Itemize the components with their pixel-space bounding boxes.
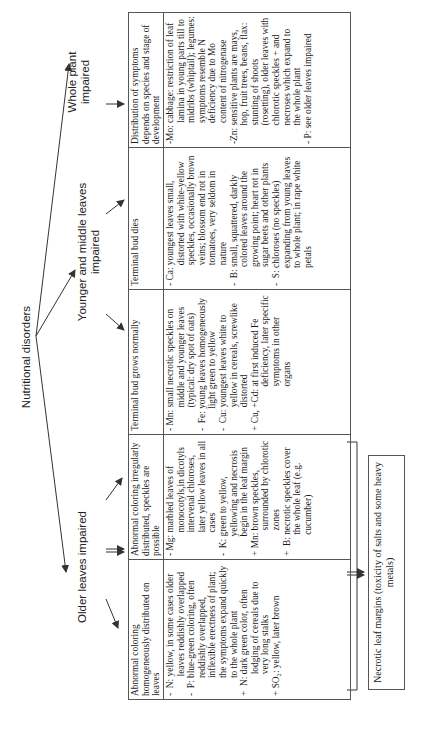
entry-cu-cd-excess: + Cu, +Cd: at first induced Fe deficienc…	[250, 293, 292, 431]
table-header-row: Abnormal coloring homogeneously distribu…	[129, 13, 164, 700]
entry-cu-deficiency: - Cu: youngest leaves white to yellow in…	[218, 293, 250, 431]
entry-p-deficiency: - P: blue-green coloring, often reddishl…	[186, 563, 239, 696]
root-label: Nutritional disorders	[20, 292, 33, 422]
entry-s-deficiency: - S: chloroses (no speckles) expanding f…	[271, 151, 313, 286]
symptoms-table: Abnormal coloring homogeneously distribu…	[128, 12, 351, 700]
cell-bud-normal: - Mn: small necrotic speckles on middle …	[164, 290, 351, 435]
cell-homogeneous: - N: yellow, in some cases older leaves …	[164, 560, 351, 700]
branch-younger-leaves: Younger and middle leaves impaired	[76, 177, 102, 327]
entry-b-excess: + B: necrotic speckles cover the whole l…	[282, 438, 314, 556]
header-distribution: Distribution of symptoms depends on spec…	[129, 13, 164, 148]
entry-ca-deficiency: - Ca: youngest leaves small, distorted w…	[165, 151, 229, 286]
entry-fe-deficiency: - Fe: young leaves homogeneously light g…	[197, 293, 218, 431]
necrotic-leaf-margins-box: Necrotic leaf margins (toxicity of salts…	[368, 455, 405, 690]
entry-mn-deficiency: - Mn: small necrotic speckles on middle …	[165, 293, 197, 431]
cell-irregular: - Mg: marbled leaves of monocotyls,in di…	[164, 435, 351, 560]
entry-mg-deficiency: - Mg: marbled leaves of monocotyls,in di…	[165, 438, 218, 556]
header-bud-dies: Terminal bud dies	[129, 148, 164, 290]
branch-older-leaves: Older leaves impaired	[76, 492, 89, 642]
header-bud-normal: Terminal bud grows normally	[129, 290, 164, 435]
cell-distribution: -Mo: cabbage: restriction of leaf lamina…	[164, 13, 351, 148]
entry-k-deficiency: - K: green to yellow, yellowing and necr…	[218, 438, 250, 556]
header-irregular: Abnormal coloring irregularly distribute…	[129, 435, 164, 560]
cell-bud-dies: - Ca: youngest leaves small, distorted w…	[164, 148, 351, 290]
entry-mn-excess: + Mn: brown speckles, surrounded by chlo…	[250, 438, 282, 556]
nutritional-disorders-diagram: Nutritional disorders Older leaves impai…	[0, 0, 422, 732]
entry-p-reference: - P: see older leaves impaired	[303, 16, 314, 144]
entry-so2-excess: + SO₂: yellow, later brown	[271, 563, 282, 696]
branch-whole-plant: Whole plant impaired	[66, 32, 92, 132]
table-body-row: - N: yellow, in some cases older leaves …	[164, 13, 351, 700]
entry-b-deficiency: - B: small, squattered, darkly colored l…	[229, 151, 271, 286]
entry-n-excess: + N: dark green color, often lodging of …	[239, 563, 271, 696]
header-homogeneous: Abnormal coloring homogeneously distribu…	[129, 560, 164, 700]
entry-mo-deficiency: -Mo: cabbage: restriction of leaf lamina…	[165, 16, 229, 144]
entry-zn-deficiency: -Zn: sensitive plants are mays, hop, fru…	[229, 16, 303, 144]
entry-n-deficiency: - N: yellow, in some cases older leaves …	[165, 563, 186, 696]
